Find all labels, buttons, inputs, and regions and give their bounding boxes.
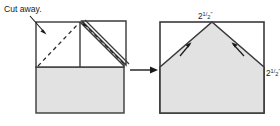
process-arrow-head-icon — [150, 66, 158, 73]
left-figure-group: Cut away. — [4, 4, 129, 113]
right-measure-unit: " — [278, 68, 280, 74]
paper-folding-diagram: Cut away. — [0, 0, 280, 126]
top-measurement-label: 21/2" — [198, 11, 212, 21]
left-figure-lower-panel — [36, 67, 124, 113]
svg-text:21/2": 21/2" — [198, 11, 212, 21]
process-arrow-group — [130, 66, 158, 73]
cut-away-label: Cut away. — [4, 4, 42, 14]
right-figure-group: 21/2" 21/2" — [160, 11, 280, 113]
right-measurement-label: 21/2" — [266, 68, 280, 78]
diagram-canvas: Cut away. — [0, 0, 280, 126]
top-measure-unit: " — [210, 11, 212, 17]
svg-text:21/2": 21/2" — [266, 68, 280, 78]
